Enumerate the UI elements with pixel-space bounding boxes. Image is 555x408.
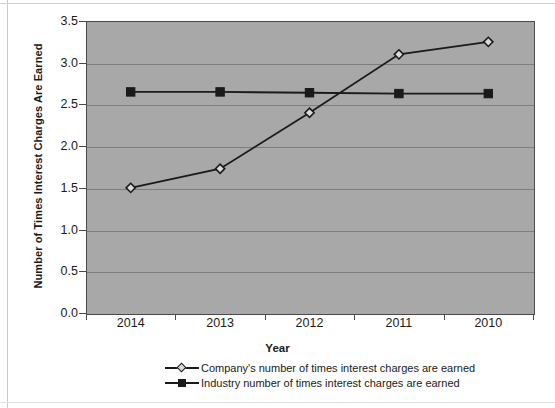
chart-legend: Company's number of times interest charg… (0, 360, 555, 390)
data-point-2012 (305, 108, 314, 117)
x-tick-label-2012: 2012 (265, 316, 355, 330)
x-tick-label-2010: 2010 (443, 316, 533, 330)
x-tick-mark-3 (354, 314, 355, 320)
x-tick-mark-2 (265, 314, 266, 320)
y-tick-mark-2.0 (79, 146, 86, 147)
y-tick-mark-1.0 (79, 230, 86, 231)
y-tick-mark-2.5 (79, 104, 86, 105)
data-point-2010 (484, 37, 493, 46)
x-tick-label-2011: 2011 (354, 316, 444, 330)
data-point-2011 (395, 89, 403, 97)
series-industry (127, 88, 493, 98)
y-tick-label-2.5: 2.5 (32, 97, 78, 111)
line-chart: Number of Times Interest Charges Are Ear… (0, 0, 555, 408)
x-tick-label-2014: 2014 (86, 316, 176, 330)
y-tick-mark-1.5 (79, 188, 86, 189)
y-tick-label-0.0: 0.0 (32, 306, 78, 320)
series-company (126, 37, 493, 192)
y-tick-label-3.5: 3.5 (32, 14, 78, 28)
square-marker-icon (165, 377, 199, 389)
y-tick-label-1.5: 1.5 (32, 181, 78, 195)
x-tick-mark-0 (86, 314, 87, 320)
data-point-2010 (484, 89, 492, 97)
x-tick-mark-5 (533, 314, 534, 320)
y-tick-label-3.0: 3.0 (32, 56, 78, 70)
legend-label: Company's number of times interest charg… (199, 362, 475, 374)
legend-item-company[interactable]: Company's number of times interest charg… (165, 360, 555, 375)
data-point-2014 (126, 183, 135, 192)
data-point-2012 (305, 89, 313, 97)
y-tick-label-0.5: 0.5 (32, 264, 78, 278)
data-point-2013 (216, 88, 224, 96)
data-point-2014 (127, 88, 135, 96)
data-point-2013 (216, 164, 225, 173)
y-tick-mark-3.0 (79, 63, 86, 64)
y-tick-mark-3.5 (79, 21, 86, 22)
data-point-2011 (394, 50, 403, 59)
diamond-marker-icon (165, 362, 199, 374)
x-tick-label-2013: 2013 (175, 316, 265, 330)
x-tick-mark-4 (444, 314, 445, 320)
scan-frame-bottom-border (0, 402, 555, 403)
y-tick-mark-0.0 (79, 313, 86, 314)
y-tick-label-1.0: 1.0 (32, 223, 78, 237)
scan-frame-top-border (0, 3, 555, 4)
x-tick-mark-1 (175, 314, 176, 320)
x-axis-title: Year (0, 342, 555, 354)
legend-item-industry[interactable]: Industry number of times interest charge… (165, 375, 555, 390)
legend-label: Industry number of times interest charge… (199, 377, 460, 389)
data-series-layer (86, 21, 533, 313)
y-tick-mark-0.5 (79, 271, 86, 272)
y-tick-label-2.0: 2.0 (32, 139, 78, 153)
